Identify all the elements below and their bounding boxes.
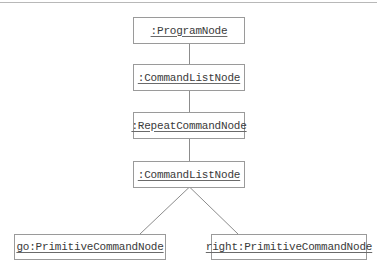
node-label: go:PrimitiveCommandNode: [16, 241, 163, 253]
node-program[interactable]: :ProgramNode: [133, 17, 245, 44]
node-command-list-2[interactable]: :CommandListNode: [133, 161, 245, 188]
node-command-list-1[interactable]: :CommandListNode: [133, 64, 245, 91]
node-label: right:PrimitiveCommandNode: [206, 241, 372, 253]
edge-cmdlist2-to-right: [190, 187, 239, 234]
node-label: :ProgramNode: [151, 25, 228, 37]
node-right-primitive-command[interactable]: right:PrimitiveCommandNode: [211, 234, 367, 260]
edge-cmdlist2-to-go: [140, 187, 190, 234]
node-label: :RepeatCommandNode: [131, 120, 246, 132]
node-label: :CommandListNode: [138, 169, 240, 181]
node-label: :CommandListNode: [138, 72, 240, 84]
node-go-primitive-command[interactable]: go:PrimitiveCommandNode: [14, 234, 166, 260]
node-repeat-command[interactable]: :RepeatCommandNode: [133, 112, 245, 139]
